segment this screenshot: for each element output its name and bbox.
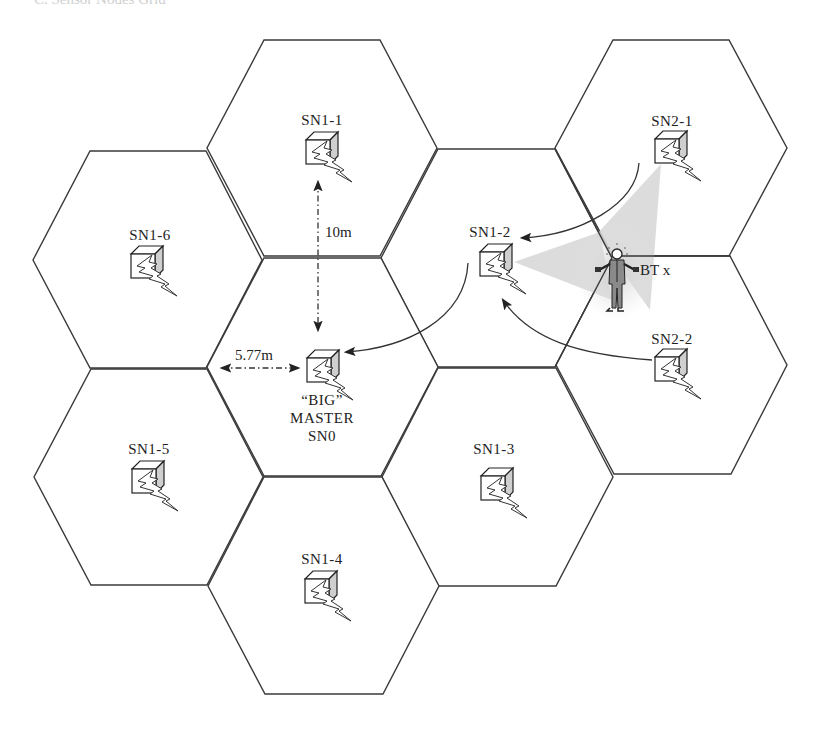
master-label-line3: SN0: [308, 428, 336, 444]
label-sn1-2: SN1-2: [469, 224, 511, 240]
label-sn1-6: SN1-6: [129, 227, 171, 243]
label-sn1-5: SN1-5: [128, 441, 170, 457]
master-label-line2: MASTER: [290, 410, 354, 426]
label-sn1-1: SN1-1: [301, 112, 343, 128]
label-sn1-3: SN1-3: [473, 441, 515, 457]
vertical-dimension-label: 10m: [325, 224, 352, 240]
label-sn2-1: SN2-1: [651, 113, 693, 129]
horizontal-dimension-label: 5.77m: [235, 347, 273, 363]
label-sn1-4: SN1-4: [301, 551, 343, 567]
label-sn2-2: SN2-2: [651, 331, 693, 347]
mobile-node-label: BT x: [640, 262, 671, 278]
master-label-line1: “BIG”: [301, 392, 343, 408]
hexagonal-grid-diagram: SN1-1 SN1-6 SN1-2 SN2-1 SN2-2 SN1-5 SN1-…: [0, 0, 822, 731]
